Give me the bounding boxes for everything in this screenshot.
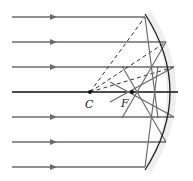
center-of-curvature-point [88,90,92,94]
concave-mirror-diagram: C F [0,0,193,181]
normals-dashed [90,17,174,92]
label-C: C [85,98,94,111]
focal-point [130,90,134,94]
label-F: F [120,97,129,110]
